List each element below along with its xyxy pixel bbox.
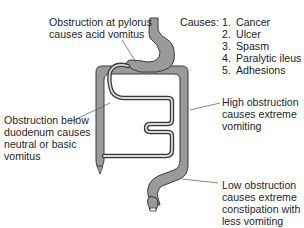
- high-obstruction-label: High obstruction causes extreme vomiting: [222, 96, 299, 132]
- appendix: [97, 166, 103, 174]
- duodenum-obstruction-label: Obstruction below duodenum causes neutra…: [4, 114, 91, 162]
- cause-item: 1.Cancer: [222, 16, 301, 28]
- rectum: [147, 196, 158, 211]
- cause-label: Paralytic ileus: [236, 52, 301, 64]
- pylorus-leader-line: [122, 40, 136, 62]
- diagram-canvas: Obstruction at pylorus causes acid vomit…: [0, 0, 304, 228]
- low-obstruction-leader-line: [182, 179, 218, 183]
- cause-item: 3.Spasm: [222, 40, 301, 52]
- cause-number: 3.: [222, 40, 236, 52]
- causes-heading: Causes:: [180, 16, 219, 28]
- cause-label: Cancer: [236, 16, 270, 28]
- cause-number: 4.: [222, 52, 236, 64]
- cause-label: Spasm: [236, 40, 269, 52]
- cause-number: 1.: [222, 16, 236, 28]
- cause-number: 2.: [222, 28, 236, 40]
- low-obstruction-label: Low obstruction causes extreme constipat…: [222, 179, 300, 227]
- pylorus-obstruction-label: Obstruction at pylorus causes acid vomit…: [49, 16, 152, 40]
- cause-label: Ulcer: [236, 28, 261, 40]
- cause-number: 5.: [222, 64, 236, 76]
- small-intestine: [104, 65, 172, 156]
- cause-label: Adhesions: [236, 64, 285, 76]
- cause-item: 5.Adhesions: [222, 64, 301, 76]
- cause-item: 4.Paralytic ileus: [222, 52, 301, 64]
- high-obstruction-leader-line: [190, 103, 220, 110]
- cause-item: 2.Ulcer: [222, 28, 301, 40]
- causes-list: 1.Cancer 2.Ulcer 3.Spasm 4.Paralytic ile…: [222, 16, 301, 76]
